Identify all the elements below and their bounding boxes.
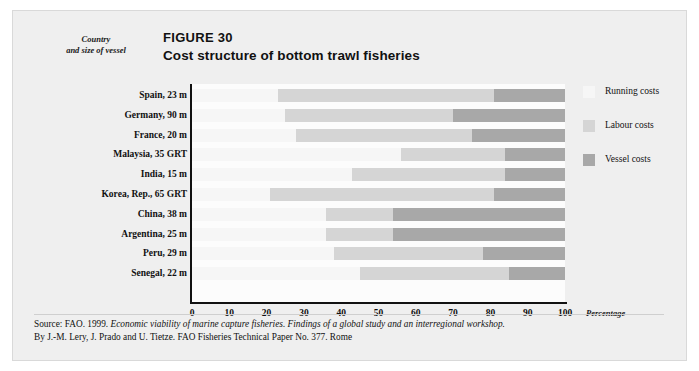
legend-label: Running costs (605, 85, 659, 98)
legend-swatch-icon (583, 120, 595, 132)
source-line-2: By J.-M. Lery, J. Prado and U. Tietze. F… (34, 331, 664, 344)
legend-label: Labour costs (605, 119, 654, 132)
bar-row-label: Spain, 23 m (139, 89, 187, 102)
bar-segment-labour-costs (326, 208, 393, 221)
bar-segment-running-costs (192, 148, 401, 161)
stacked-bar (192, 89, 565, 102)
stacked-bar (192, 129, 565, 142)
bar-segment-labour-costs (360, 267, 509, 280)
chart-legend: Running costsLabour costsVessel costs (583, 86, 683, 188)
stacked-bar (192, 228, 565, 241)
source-prefix: Source: FAO. 1999. (34, 319, 111, 329)
bar-row-label: Germany, 90 m (124, 109, 187, 122)
table-row: India, 15 m (192, 165, 565, 185)
bar-segment-running-costs (192, 109, 285, 122)
x-axis-line (190, 302, 567, 304)
bar-row-label: Senegal, 22 m (131, 267, 187, 280)
legend-swatch-icon (583, 86, 595, 98)
legend-item-vessel-costs: Vessel costs (583, 154, 683, 188)
x-axis-title: Percentage (586, 308, 625, 318)
stacked-bar (192, 208, 565, 221)
x-tick-label: 20 (252, 308, 282, 318)
figure-page: Country and size of vessel FIGURE 30 Cos… (0, 0, 699, 371)
bar-segment-running-costs (192, 267, 360, 280)
bar-row-label: France, 20 m (134, 129, 187, 142)
bar-segment-labour-costs (296, 129, 471, 142)
stacked-bar (192, 168, 565, 181)
table-row: France, 20 m (192, 126, 565, 146)
y-axis-caption: Country and size of vessel (46, 34, 146, 56)
table-row: Senegal, 22 m (192, 264, 565, 284)
table-row: Spain, 23 m (192, 86, 565, 106)
source-title: Economic viability of marine capture fis… (111, 319, 505, 329)
stacked-bar (192, 188, 565, 201)
bar-segment-labour-costs (352, 168, 505, 181)
bar-segment-labour-costs (326, 228, 393, 241)
bar-segment-vessel-costs (453, 109, 565, 122)
legend-item-running-costs: Running costs (583, 86, 683, 120)
bar-segment-vessel-costs (505, 168, 565, 181)
figure-title: Cost structure of bottom trawl fisheries (163, 48, 420, 63)
legend-item-labour-costs: Labour costs (583, 120, 683, 154)
bar-segment-running-costs (192, 129, 296, 142)
x-tick-label: 50 (364, 308, 394, 318)
bar-segment-running-costs (192, 89, 278, 102)
x-tick-label: 0 (177, 308, 207, 318)
stacked-bar (192, 247, 565, 260)
table-row: China, 38 m (192, 205, 565, 225)
bar-segment-vessel-costs (509, 267, 565, 280)
bar-row-label: Malaysia, 35 GRT (113, 148, 187, 161)
stacked-bar (192, 148, 565, 161)
bar-segment-running-costs (192, 247, 334, 260)
stacked-bar (192, 109, 565, 122)
bar-segment-vessel-costs (393, 228, 565, 241)
bar-row-label: Peru, 29 m (143, 247, 187, 260)
bar-row-label: India, 15 m (141, 168, 187, 181)
x-tick-label: 70 (438, 308, 468, 318)
x-tick-label: 100 (550, 308, 580, 318)
bar-segment-labour-costs (334, 247, 483, 260)
bar-segment-running-costs (192, 228, 326, 241)
bar-row-label: Argentina, 25 m (121, 228, 187, 241)
x-tick-label: 90 (513, 308, 543, 318)
y-axis-caption-line1: Country (46, 34, 146, 45)
bar-segment-vessel-costs (505, 148, 565, 161)
x-tick-label: 30 (289, 308, 319, 318)
bar-segment-vessel-costs (494, 89, 565, 102)
bar-segment-vessel-costs (393, 208, 565, 221)
bar-segment-running-costs (192, 168, 352, 181)
bar-segment-vessel-costs (483, 247, 565, 260)
bar-segment-vessel-costs (494, 188, 565, 201)
table-row: Korea, Rep., 65 GRT (192, 185, 565, 205)
x-tick-label: 80 (475, 308, 505, 318)
x-tick-label: 10 (214, 308, 244, 318)
table-row: Peru, 29 m (192, 244, 565, 264)
x-tick-label: 40 (326, 308, 356, 318)
table-row: Malaysia, 35 GRT (192, 145, 565, 165)
legend-label: Vessel costs (605, 153, 651, 166)
y-axis-caption-line2: and size of vessel (46, 45, 146, 56)
bar-segment-labour-costs (285, 109, 453, 122)
table-row: Germany, 90 m (192, 106, 565, 126)
stacked-bar (192, 267, 565, 280)
source-line-1: Source: FAO. 1999. Economic viability of… (34, 318, 664, 331)
bar-segment-labour-costs (278, 89, 494, 102)
bar-row-label: Korea, Rep., 65 GRT (101, 188, 187, 201)
table-row: Argentina, 25 m (192, 225, 565, 245)
bar-segment-running-costs (192, 188, 270, 201)
bar-segment-running-costs (192, 208, 326, 221)
footnote-divider (34, 314, 664, 315)
legend-swatch-icon (583, 154, 595, 166)
bar-segment-labour-costs (270, 188, 494, 201)
figure-number: FIGURE 30 (163, 30, 233, 45)
bar-row-label: China, 38 m (138, 208, 187, 221)
x-tick-label: 60 (401, 308, 431, 318)
bar-segment-vessel-costs (472, 129, 565, 142)
bar-segment-labour-costs (401, 148, 505, 161)
chart-plot-area: Spain, 23 mGermany, 90 mFrance, 20 mMala… (192, 84, 565, 302)
source-note: Source: FAO. 1999. Economic viability of… (34, 318, 664, 343)
